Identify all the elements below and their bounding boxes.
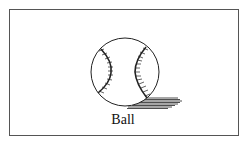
- ball-outline: [91, 38, 159, 106]
- figure-caption: Ball: [0, 112, 246, 128]
